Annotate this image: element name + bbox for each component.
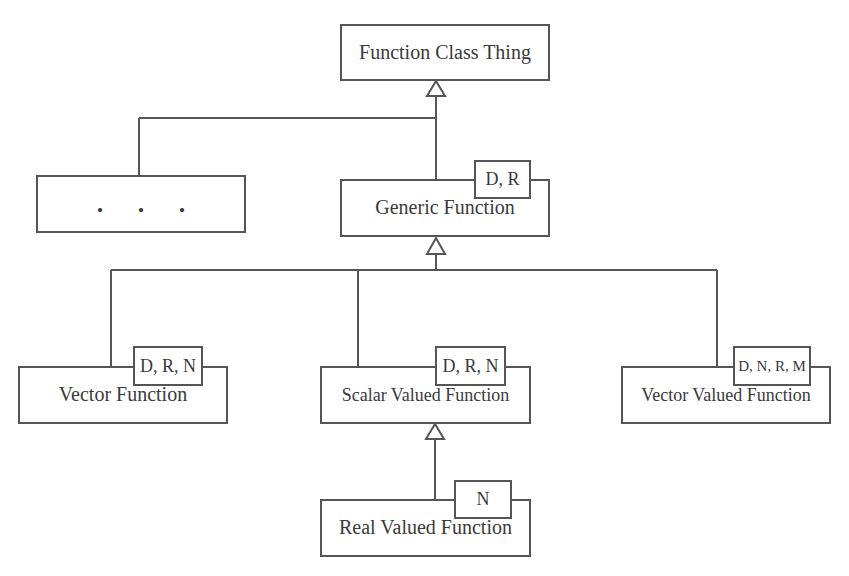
- params-text: N: [477, 489, 490, 510]
- ellipsis-text: . . .: [83, 189, 200, 219]
- template-params-real: N: [454, 480, 512, 519]
- template-params-vector-valued: D, N, R, M: [733, 346, 811, 386]
- class-node-function-class-thing[interactable]: Function Class Thing: [340, 24, 550, 81]
- generalization-arrowhead-icon: [427, 238, 445, 254]
- params-text: D, R: [485, 169, 519, 190]
- class-name: Vector Function: [20, 383, 226, 406]
- template-params-scalar: D, R, N: [435, 346, 506, 386]
- generalization-arrowhead-icon: [427, 81, 445, 96]
- class-name: Function Class Thing: [359, 41, 531, 64]
- params-text: D, N, R, M: [738, 358, 806, 375]
- inheritance-connectors: [0, 0, 849, 576]
- generalization-arrowhead-icon: [426, 424, 444, 439]
- class-name: Vector Valued Function: [623, 385, 829, 406]
- template-params-vector: D, R, N: [133, 346, 203, 386]
- params-text: D, R, N: [140, 356, 196, 377]
- class-name: Real Valued Function: [322, 516, 529, 539]
- class-node-ellipsis[interactable]: . . .: [36, 175, 246, 233]
- class-name: Generic Function: [342, 196, 548, 219]
- params-text: D, R, N: [442, 356, 498, 377]
- template-params-generic: D, R: [474, 160, 531, 199]
- class-name: Scalar Valued Function: [322, 385, 529, 406]
